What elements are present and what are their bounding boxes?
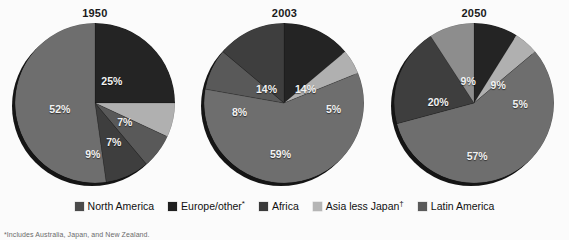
legend-label-footnote-marker: *: [242, 199, 245, 208]
pie-wrap: 14%5%59%8%14%: [204, 23, 364, 183]
pie-slice[interactable]: [95, 23, 175, 103]
legend-swatch-icon: [418, 202, 427, 211]
pie-chart-1950: 195025%7%7%9%52%: [5, 0, 185, 183]
legend-item[interactable]: Africa: [259, 200, 299, 212]
chart-title: 2003: [272, 7, 297, 19]
pie-charts-row: 195025%7%7%9%52%200314%5%59%8%14%20509%5…: [0, 0, 569, 196]
chart-legend: North AmericaEurope/other*AfricaAsia les…: [0, 200, 569, 212]
legend-label-text: North America: [88, 200, 155, 212]
pie-body: 9%5%57%20%9%: [394, 23, 554, 183]
legend-label-footnote-marker: †: [399, 199, 403, 208]
legend-swatch-icon: [168, 202, 177, 211]
legend-label-text: Africa: [272, 200, 299, 212]
pie-wrap: 25%7%7%9%52%: [15, 23, 175, 183]
legend-item[interactable]: North America: [75, 200, 155, 212]
legend-item[interactable]: Asia less Japan†: [313, 200, 404, 212]
pie-slice[interactable]: [15, 23, 106, 183]
chart-title: 2050: [462, 7, 487, 19]
chart-footnote: *Includes Australia, Japan, and New Zeal…: [4, 231, 150, 239]
legend-label: Latin America: [431, 200, 495, 212]
legend-label-text: Asia less Japan: [326, 200, 400, 212]
pie-chart-2050: 20509%5%57%20%9%: [384, 0, 564, 183]
pie-body: 14%5%59%8%14%: [204, 23, 364, 183]
chart-title: 1950: [82, 7, 107, 19]
legend-label-text: Latin America: [431, 200, 495, 212]
legend-swatch-icon: [313, 202, 322, 211]
legend-label: North America: [88, 200, 155, 212]
legend-label: Africa: [272, 200, 299, 212]
legend-label: Europe/other*: [181, 200, 245, 212]
pie-body: 25%7%7%9%52%: [15, 23, 175, 183]
legend-swatch-icon: [259, 202, 268, 211]
legend-item[interactable]: Europe/other*: [168, 200, 245, 212]
legend-item[interactable]: Latin America: [418, 200, 495, 212]
pie-wrap: 9%5%57%20%9%: [394, 23, 554, 183]
legend-label-text: Europe/other: [181, 200, 242, 212]
pie-chart-2003: 200314%5%59%8%14%: [194, 0, 374, 183]
legend-label: Asia less Japan†: [326, 200, 404, 212]
legend-swatch-icon: [75, 202, 84, 211]
